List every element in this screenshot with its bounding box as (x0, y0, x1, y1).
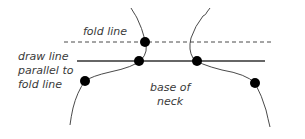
draw-left-dot (134, 56, 144, 66)
draw-right-dot (192, 56, 202, 66)
draw-line-label-line3: fold line (18, 78, 73, 92)
base-of-neck-label-line2: neck (150, 95, 190, 109)
fold-line-label: fold line (83, 25, 127, 39)
right-neck-outline (190, 8, 270, 127)
fold-left-dot (140, 37, 150, 47)
shoulder-left-dot (80, 76, 90, 86)
shoulder-right-dot (250, 78, 260, 88)
neckline-diagram: fold line draw line parallel to fold lin… (0, 0, 305, 139)
draw-line-label: draw line parallel to fold line (18, 50, 73, 92)
base-of-neck-label: base of neck (150, 81, 190, 109)
base-of-neck-label-line1: base of (150, 81, 190, 95)
draw-line-label-line1: draw line (18, 50, 73, 64)
draw-line-label-line2: parallel to (18, 64, 73, 78)
